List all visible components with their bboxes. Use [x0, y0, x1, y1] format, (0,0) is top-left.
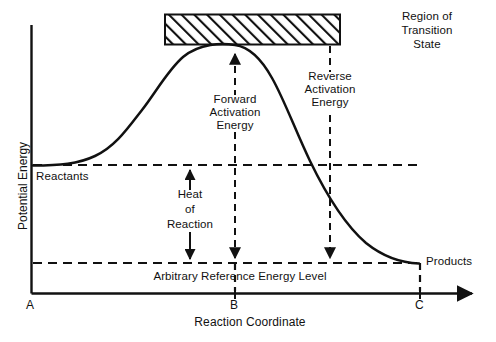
heat-of-reaction-label-line1: Heat: [145, 188, 235, 202]
y-axis-title: Potential Energy: [16, 142, 30, 230]
axis-lines: [32, 25, 473, 294]
reverse-activation-label-line3: Energy: [284, 96, 376, 110]
products-label: Products: [426, 255, 472, 269]
transition-state-label-line3: State: [372, 38, 482, 52]
forward-activation-label-line1: Forward: [188, 93, 282, 107]
reference-level-label: Arbitrary Reference Energy Level: [120, 270, 360, 284]
transition-state-region: [165, 15, 340, 45]
forward-activation-label-line3: Energy: [188, 119, 282, 133]
x-tick-label-a: A: [26, 299, 34, 313]
energy-diagram-figure: Potential Energy Reaction Coordinate A B…: [0, 0, 496, 342]
heat-of-reaction-label-line2: of: [145, 203, 235, 217]
transition-state-label-line1: Region of: [372, 10, 482, 24]
x-axis-title: Reaction Coordinate: [175, 316, 325, 330]
reactants-label: Reactants: [36, 170, 89, 184]
x-tick-label-c: C: [415, 299, 424, 313]
reverse-activation-label-line1: Reverse: [284, 70, 376, 84]
x-tick-label-b: B: [230, 299, 238, 313]
transition-state-label-line2: Transition: [372, 24, 482, 38]
reverse-activation-label-line2: Activation: [284, 83, 376, 97]
heat-of-reaction-label-line3: Reaction: [145, 218, 235, 232]
forward-activation-label-line2: Activation: [188, 106, 282, 120]
